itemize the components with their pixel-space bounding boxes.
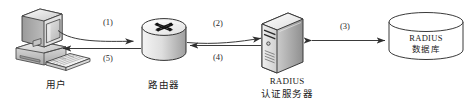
edge-label-1: (1)	[103, 17, 113, 27]
database-inner-line-1: RADIUS	[386, 33, 466, 44]
edge-label-2: (2)	[213, 18, 223, 28]
edge-2-line	[187, 38, 261, 43]
node-label-router: 路由器	[128, 79, 200, 91]
node-label-user: 用户	[18, 79, 94, 91]
edge-1-line	[58, 31, 134, 42]
edge-label-3: (3)	[340, 21, 350, 31]
server-tower-icon	[262, 13, 303, 73]
database-inner-line-2: 数据库	[386, 44, 466, 55]
desktop-computer-icon	[16, 9, 90, 71]
database-inner-text: RADIUS 数据库	[386, 33, 466, 54]
network-diagram: (1) (5) (2) (4) (3) RADIUS 数据库 用户 路由器 RA…	[0, 0, 472, 105]
node-label-user-line-1: 用户	[18, 79, 94, 91]
router-icon	[142, 19, 186, 61]
node-label-radius-server-line-2: 认证服务器	[241, 88, 333, 100]
node-label-router-line-1: 路由器	[128, 79, 200, 91]
node-label-radius-server: RADIUS 认证服务器	[241, 76, 333, 99]
edge-label-4: (4)	[213, 52, 223, 62]
edge-label-5: (5)	[103, 53, 113, 63]
node-label-radius-server-line-1: RADIUS	[241, 76, 333, 88]
